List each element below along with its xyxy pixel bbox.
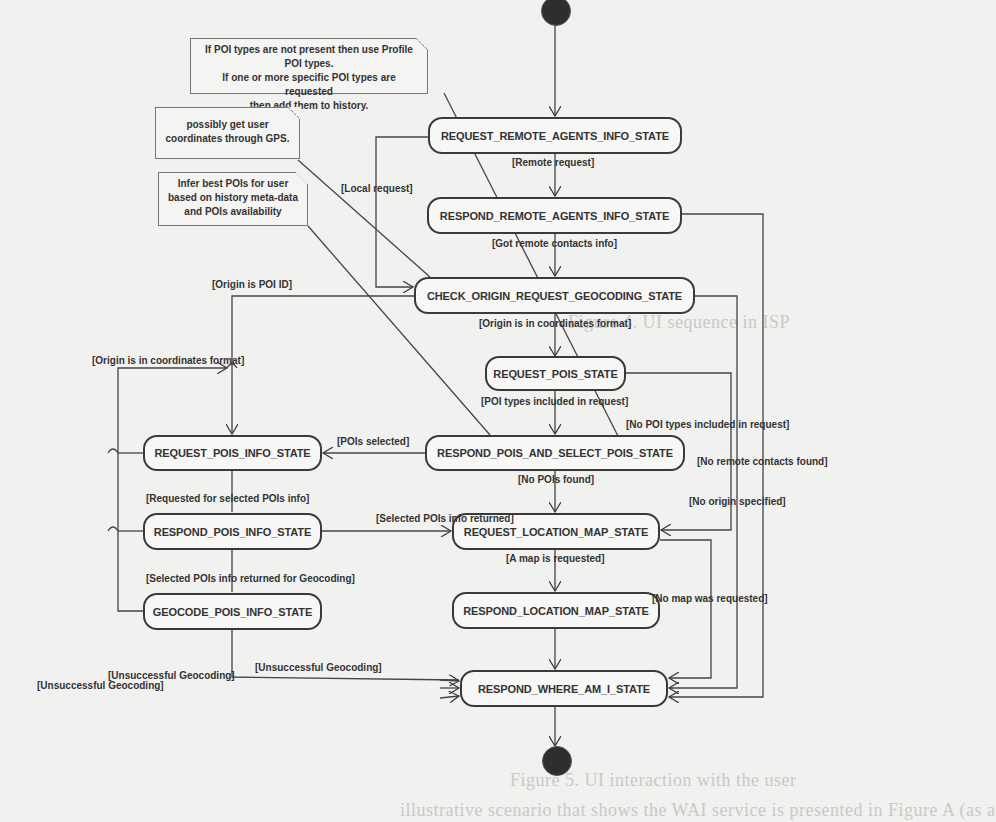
guard-requested-selected-info: [Requested for selected POIs info] (146, 493, 309, 504)
note-line: and POIs availability (167, 205, 299, 219)
state-geocode-pois-info: GEOCODE_POIS_INFO_STATE (143, 593, 322, 630)
note-line: If POI types are not present then use Pr… (199, 43, 419, 71)
final-state (542, 746, 572, 776)
note-line: coordinates through GPS. (164, 132, 291, 146)
state-respond-where-am-i: RESPOND_WHERE_AM_I_STATE (460, 670, 668, 707)
note-line: based on history meta-data (167, 191, 299, 205)
guard-origin-poi-id: [Origin is POI ID] (212, 279, 292, 290)
note-line: If one or more specific POI types are re… (199, 71, 419, 99)
guard-unsuccessful-geocoding-3: [Unsuccessful Geocoding] (37, 680, 164, 691)
state-request-pois: REQUEST_POIS_STATE (485, 356, 626, 391)
guard-local-request: [Local request] (341, 183, 413, 194)
state-respond-pois-info: RESPOND_POIS_INFO_STATE (143, 513, 322, 550)
note-gps: possibly get user coordinates through GP… (155, 107, 300, 159)
guard-poi-types-included: [POI types included in request] (481, 396, 628, 407)
guard-remote-request: [Remote request] (512, 157, 594, 168)
guard-selected-info-geocoding: [Selected POIs info returned for Geocodi… (146, 573, 355, 584)
state-respond-location-map: RESPOND_LOCATION_MAP_STATE (452, 592, 660, 629)
note-poi-types: If POI types are not present then use Pr… (190, 38, 428, 94)
guard-got-remote-contacts: [Got remote contacts info] (492, 238, 617, 249)
state-request-remote-agents-info: REQUEST_REMOTE_AGENTS_INFO_STATE (428, 117, 682, 154)
guard-unsuccessful-geocoding-1: [Unsuccessful Geocoding] (255, 662, 382, 673)
note-line: Infer best POIs for user (167, 177, 299, 191)
guard-no-poi-types: [No POI types included in request] (626, 419, 789, 430)
guard-map-requested: [A map is requested] (506, 553, 605, 564)
state-respond-remote-agents-info: RESPOND_REMOTE_AGENTS_INFO_STATE (427, 197, 682, 234)
guard-selected-info-returned: [Selected POIs info returned] (376, 513, 514, 524)
guard-pois-selected: [POIs selected] (337, 436, 409, 447)
guard-origin-coords-left: [Origin is in coordinates format] (92, 355, 244, 366)
note-infer-pois: Infer best POIs for user based on histor… (158, 172, 308, 226)
guard-no-pois-found: [No POIs found] (518, 474, 594, 485)
note-line: possibly get user (164, 118, 291, 132)
guard-no-remote-contacts: [No remote contacts found] (697, 456, 828, 467)
state-check-origin-request-geocoding: CHECK_ORIGIN_REQUEST_GEOCODING_STATE (414, 277, 695, 314)
guard-origin-coords-main: [Origin is in coordinates format] (479, 318, 631, 329)
guard-no-origin: [No origin specified] (689, 496, 786, 507)
state-request-pois-info: REQUEST_POIS_INFO_STATE (143, 435, 322, 471)
state-respond-pois-and-select-pois: RESPOND_POIS_AND_SELECT_POIS_STATE (425, 435, 685, 471)
guard-no-map: [No map was requested] (652, 593, 768, 604)
